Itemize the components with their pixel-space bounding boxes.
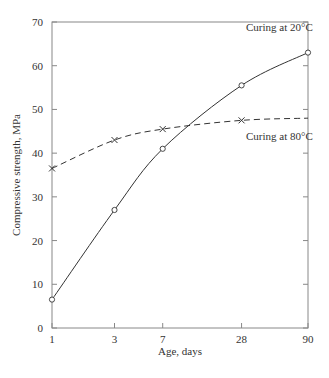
x-tick-label: 3 <box>112 333 118 345</box>
circle-marker <box>49 297 54 302</box>
y-tick-label: 70 <box>32 16 44 28</box>
legend-label-20c: Curing at 20°C <box>246 21 313 33</box>
plot-area <box>49 50 311 302</box>
circle-marker <box>160 146 165 151</box>
chart: 0102030405060701372890 Age, days Compres… <box>0 0 329 378</box>
x-tick-label: 1 <box>49 333 55 345</box>
x-marker <box>112 137 118 143</box>
circle-marker <box>239 83 244 88</box>
x-tick-label: 7 <box>160 333 166 345</box>
y-tick-label: 30 <box>32 191 44 203</box>
axes: 0102030405060701372890 <box>32 16 314 345</box>
y-tick-label: 50 <box>32 103 44 115</box>
y-tick-label: 60 <box>32 60 44 72</box>
x-tick-label: 28 <box>236 333 248 345</box>
legend-label-80c: Curing at 80°C <box>246 130 313 142</box>
y-tick-label: 10 <box>32 278 44 290</box>
circle-marker <box>305 50 310 55</box>
x-tick-label: 90 <box>303 333 315 345</box>
y-tick-label: 20 <box>32 235 44 247</box>
x-axis-label: Age, days <box>158 345 202 357</box>
plot-frame <box>52 22 308 328</box>
circle-marker <box>112 207 117 212</box>
y-tick-label: 0 <box>38 322 44 334</box>
series-line <box>52 118 308 168</box>
series-line <box>52 53 308 300</box>
y-tick-label: 40 <box>32 147 44 159</box>
y-axis-label: Compressive strength, MPa <box>10 114 22 236</box>
